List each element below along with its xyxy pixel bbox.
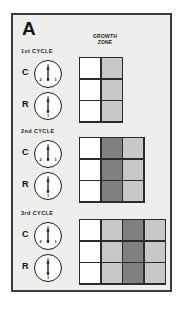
growth-zone-grid xyxy=(79,219,166,285)
growth-zone-cell xyxy=(80,80,100,100)
growth-zone-cell xyxy=(145,242,165,262)
growth-zone-cell xyxy=(102,181,122,201)
dial-number-left: 2 xyxy=(38,240,44,244)
c-dial: 0 2 1 xyxy=(34,60,62,88)
dial-number-right: 1 xyxy=(53,158,59,162)
growth-zone-cell xyxy=(123,138,143,158)
growth-zone-cell xyxy=(80,58,100,78)
growth-zone-cell xyxy=(80,242,100,262)
diagram-panel: A GROWTH ZONE 1st CYCLE C 0 2 1 xyxy=(11,13,172,292)
row-label-c: C xyxy=(22,230,29,239)
dial-number-left: 2 xyxy=(38,78,44,82)
growth-zone-grid xyxy=(79,137,145,203)
dial-number-top: 0 xyxy=(45,144,51,148)
growth-zone-cell xyxy=(102,58,122,78)
growth-zone-cell xyxy=(145,263,165,283)
r-dial: 0 1 xyxy=(34,172,62,200)
growth-zone-heading-line2: ZONE xyxy=(75,39,135,45)
growth-zone-cell xyxy=(102,160,122,180)
dial-number-right: 1 xyxy=(53,78,59,82)
panel-letter: A xyxy=(22,19,36,38)
row-label-r: R xyxy=(22,262,29,271)
growth-zone-cell xyxy=(123,242,143,262)
growth-zone-cell xyxy=(102,101,122,121)
growth-zone-cell xyxy=(80,263,100,283)
growth-zone-cell xyxy=(80,220,100,240)
growth-zone-grid xyxy=(79,57,123,123)
row-label-r: R xyxy=(22,100,29,109)
dial-number-left: 2 xyxy=(38,158,44,162)
growth-zone-cell xyxy=(102,263,122,283)
dial-number-top: 0 xyxy=(45,96,51,100)
growth-zone-heading: GROWTH ZONE xyxy=(75,33,135,45)
growth-zone-cell xyxy=(80,160,100,180)
growth-zone-cell xyxy=(123,263,143,283)
c-dial: 0 2 1 xyxy=(34,222,62,250)
growth-zone-cell xyxy=(102,80,122,100)
growth-zone-cell xyxy=(123,160,143,180)
c-dial: 0 2 1 xyxy=(34,140,62,168)
figure-panel-a: A GROWTH ZONE 1st CYCLE C 0 2 1 xyxy=(0,0,186,309)
dial-number-top: 0 xyxy=(45,176,51,180)
row-label-c: C xyxy=(22,148,29,157)
cycle-title: 1st CYCLE xyxy=(21,48,53,54)
r-dial: 0 1 xyxy=(34,254,62,282)
growth-zone-cell xyxy=(102,220,122,240)
r-dial: 0 1 xyxy=(34,92,62,120)
cycle-title: 2nd CYCLE xyxy=(21,128,55,134)
dial-number-bottom: 1 xyxy=(45,194,51,198)
growth-zone-cell xyxy=(102,138,122,158)
growth-zone-cell xyxy=(80,181,100,201)
growth-zone-cell xyxy=(123,181,143,201)
dial-number-top: 0 xyxy=(45,258,51,262)
dial-number-bottom: 1 xyxy=(45,276,51,280)
growth-zone-cell xyxy=(80,101,100,121)
growth-zone-cell xyxy=(102,242,122,262)
growth-zone-cell xyxy=(145,220,165,240)
row-label-r: R xyxy=(22,180,29,189)
growth-zone-cell xyxy=(123,220,143,240)
dial-number-top: 0 xyxy=(45,226,51,230)
row-label-c: C xyxy=(22,68,29,77)
dial-number-right: 1 xyxy=(53,240,59,244)
dial-number-bottom: 1 xyxy=(45,114,51,118)
dial-number-top: 0 xyxy=(45,64,51,68)
cycle-title: 3rd CYCLE xyxy=(21,210,53,216)
growth-zone-cell xyxy=(80,138,100,158)
